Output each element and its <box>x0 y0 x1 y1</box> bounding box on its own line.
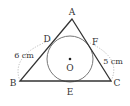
label-o: O <box>66 63 73 73</box>
label-c: C <box>114 78 121 88</box>
label-b: B <box>10 78 17 88</box>
label-bd-length: 6 cm <box>14 51 34 60</box>
label-f: F <box>92 37 98 47</box>
center-point <box>69 58 72 61</box>
label-e: E <box>67 87 74 97</box>
label-a: A <box>68 7 76 17</box>
triangle-incircle-diagram: A B C D F E O 6 cm 5 cm <box>0 0 130 106</box>
label-d: D <box>43 34 50 44</box>
label-cf-length: 5 cm <box>103 57 123 66</box>
bd-measure-arc <box>18 40 51 81</box>
